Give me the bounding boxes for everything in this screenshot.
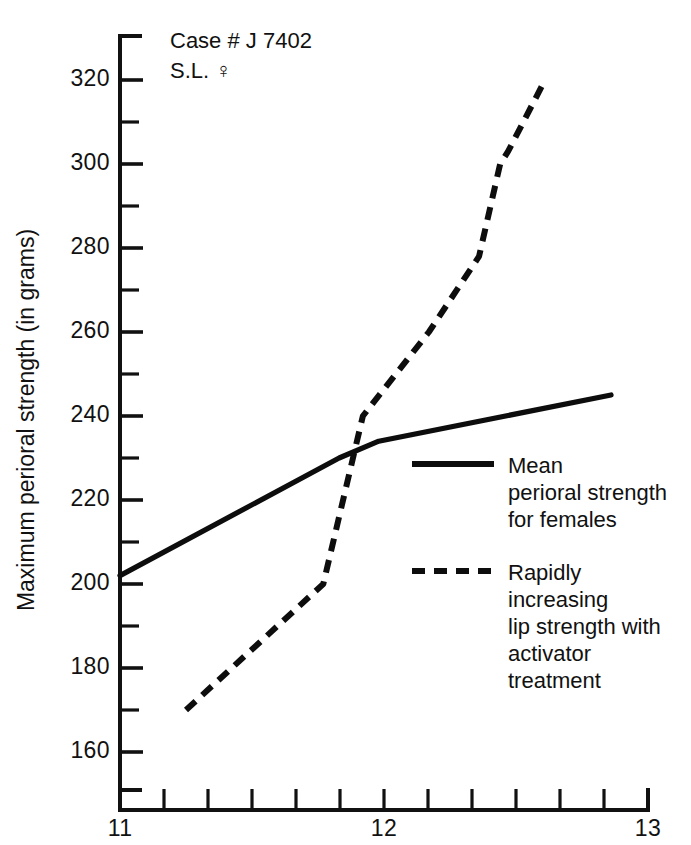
y-tick-label: 200 <box>0 569 110 596</box>
legend-label-mean: Mean perioral strength for females <box>508 452 684 533</box>
y-tick-label: 320 <box>0 65 110 92</box>
y-axis-line <box>120 36 140 790</box>
y-tick-label: 160 <box>0 737 110 764</box>
chart-legend: Mean perioral strength for females Rapid… <box>412 452 684 720</box>
legend-entry-activator: Rapidly increasing lip strength with act… <box>412 559 684 694</box>
x-tick-label: 13 <box>608 815 688 842</box>
legend-entry-mean: Mean perioral strength for females <box>412 452 684 533</box>
y-tick-label: 180 <box>0 653 110 680</box>
subject-initials-text: S.L. ♀ <box>170 56 312 86</box>
y-tick-label: 300 <box>0 149 110 176</box>
legend-activator-line1: Rapidly increasing <box>508 559 684 613</box>
case-number-text: Case # J 7402 <box>170 26 312 56</box>
y-tick-label: 240 <box>0 401 110 428</box>
x-tick-label: 11 <box>80 815 160 842</box>
x-tick-marks <box>164 789 604 810</box>
legend-swatch-dashed-line-icon <box>412 568 494 574</box>
legend-activator-line3: activator treatment <box>508 640 684 694</box>
legend-mean-line1: Mean <box>508 452 684 479</box>
chart-figure: Maximum perioral strength (in grams) 320… <box>0 0 691 845</box>
y-tick-label: 280 <box>0 233 110 260</box>
legend-activator-line2: lip strength with <box>508 613 684 640</box>
legend-swatch-solid-line-icon <box>412 461 494 467</box>
x-tick-label: 12 <box>344 815 424 842</box>
y-tick-label: 220 <box>0 485 110 512</box>
legend-label-activator: Rapidly increasing lip strength with act… <box>508 559 684 694</box>
y-tick-label: 260 <box>0 317 110 344</box>
legend-mean-line2: perioral strength <box>508 479 684 506</box>
legend-mean-line3: for females <box>508 506 684 533</box>
y-tick-marks <box>120 80 143 752</box>
case-annotation: Case # J 7402 S.L. ♀ <box>170 26 312 86</box>
